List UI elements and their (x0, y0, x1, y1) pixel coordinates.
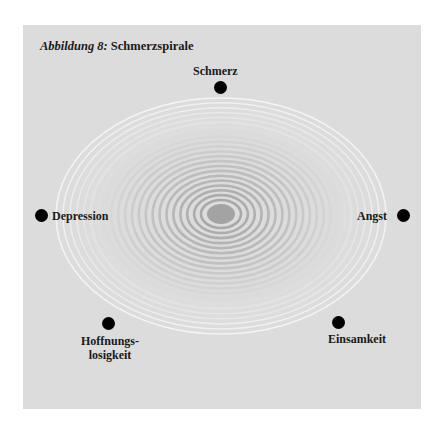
node-label-hoffnungslosigkeit: Hoffnungs- losigkeit (70, 334, 150, 362)
spiral-core (207, 204, 235, 224)
node-dot-einsamkeit (332, 316, 345, 329)
node-label-schmerz: Schmerz (193, 64, 238, 78)
node-dot-depression (35, 209, 48, 222)
node-label-einsamkeit: Einsamkeit (328, 332, 386, 346)
node-dot-hoffnungslosigkeit (102, 317, 115, 330)
node-label-depression: Depression (52, 209, 108, 223)
label-line-2: losigkeit (70, 348, 150, 362)
node-label-angst: Angst (357, 209, 387, 223)
node-dot-angst (397, 209, 410, 222)
label-line-1: Hoffnungs- (70, 334, 150, 348)
node-dot-schmerz (214, 81, 227, 94)
